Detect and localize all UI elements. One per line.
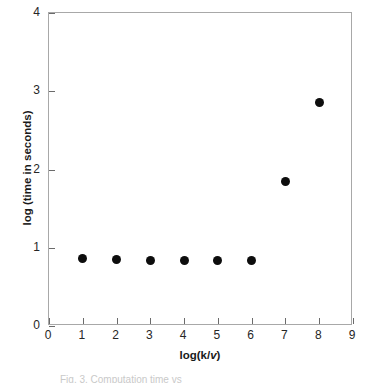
data-point [180, 256, 189, 265]
data-point [281, 177, 290, 186]
data-point [247, 256, 256, 265]
x-axis-title-plain: log(k/ [180, 349, 211, 361]
figure-scatter-plot: log(k/v) log (time in seconds) Fig. 3. C… [0, 0, 369, 383]
y-axis-tick-label: 2 [22, 162, 40, 176]
x-axis-tick-label: 6 [239, 328, 263, 342]
data-point [315, 98, 324, 107]
x-axis-tick-label: 4 [171, 328, 195, 342]
x-axis-tick [83, 318, 84, 324]
figure-caption: Fig. 3. Computation time vs [60, 374, 320, 383]
x-axis-tick [150, 318, 151, 324]
x-axis-tick-label: 9 [340, 328, 364, 342]
y-axis-tick [49, 91, 55, 92]
x-axis-tick [252, 318, 253, 324]
x-axis-tick-label: 3 [137, 328, 161, 342]
x-axis-title-tail: ) [217, 349, 221, 361]
x-axis-tick [49, 318, 50, 324]
y-axis-tick-label: 1 [22, 240, 40, 254]
data-point [78, 254, 87, 263]
x-axis-tick-label: 5 [205, 328, 229, 342]
y-axis-tick [49, 13, 55, 14]
x-axis-tick [353, 318, 354, 324]
x-axis-tick-label: 8 [306, 328, 330, 342]
y-axis-tick-label: 3 [22, 83, 40, 97]
y-axis-tick-label: 4 [22, 5, 40, 19]
x-axis-tick [285, 318, 286, 324]
x-axis-tick [184, 318, 185, 324]
y-axis-tick [49, 248, 55, 249]
y-axis-tick [49, 170, 55, 171]
data-point [146, 256, 155, 265]
x-axis-tick [319, 318, 320, 324]
data-point [213, 256, 222, 265]
data-point [112, 255, 121, 264]
x-axis-tick-label: 2 [104, 328, 128, 342]
x-axis-tick-label: 1 [70, 328, 94, 342]
y-axis-tick-label: 0 [22, 318, 40, 332]
y-axis-tick [49, 326, 55, 327]
plot-area [48, 12, 352, 325]
x-axis-tick-label: 7 [272, 328, 296, 342]
x-axis-tick [218, 318, 219, 324]
x-axis-title: log(k/v) [48, 349, 352, 361]
x-axis-tick [117, 318, 118, 324]
